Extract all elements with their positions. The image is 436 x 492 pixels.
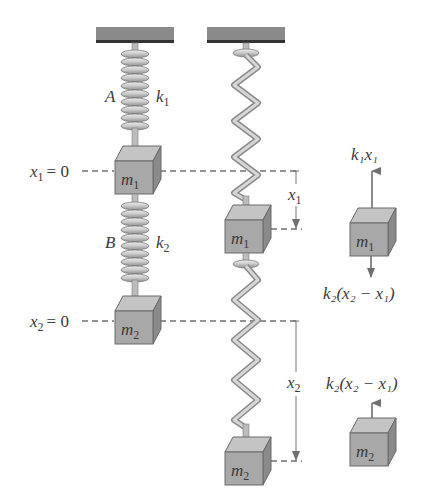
left-system: A k1 m1 x1= 0	[29, 27, 300, 344]
spring-a-constant: k1	[156, 87, 170, 109]
x1-dimension-label: x1	[287, 185, 302, 207]
fbd-m1-down-force: k₂(x₂ − x₁)	[323, 284, 395, 303]
spring-b-constant: k2	[156, 233, 170, 255]
mass-m1-right: m1	[225, 205, 271, 253]
spring-mass-diagram: A k1 m1 x1= 0	[0, 0, 436, 492]
ref-x1-label: x1= 0	[29, 162, 69, 184]
ceiling-left	[96, 27, 174, 41]
spring-a	[121, 50, 149, 150]
spring-b-label: B	[105, 233, 116, 252]
ref-x2-label: x2= 0	[29, 312, 69, 334]
mass-m2-right: m2	[225, 437, 271, 485]
spring-b	[121, 194, 149, 300]
x1-dimension: x1	[287, 171, 302, 228]
x2-dimension: x2	[286, 321, 301, 460]
fbd-m1-up-force: k₁x₁	[351, 145, 378, 164]
ceiling-right	[207, 27, 285, 41]
fbd-m2-up-force: k₂(x₂ − x₁)	[326, 374, 398, 393]
free-body-m2: k₂(x₂ − x₁) m2	[326, 374, 398, 466]
mass-m1-left: m1	[115, 146, 161, 194]
free-body-m1: k₁x₁ m1 k₂(x₂ − x₁)	[323, 145, 396, 303]
x2-dimension-label: x2	[286, 373, 301, 395]
spring-a-stretched	[233, 49, 259, 210]
spring-b-stretched	[233, 253, 259, 442]
spring-a-label: A	[104, 87, 116, 106]
right-system: m1 x1 m2 x2	[207, 27, 302, 485]
mass-m2-left: m2	[115, 296, 161, 344]
